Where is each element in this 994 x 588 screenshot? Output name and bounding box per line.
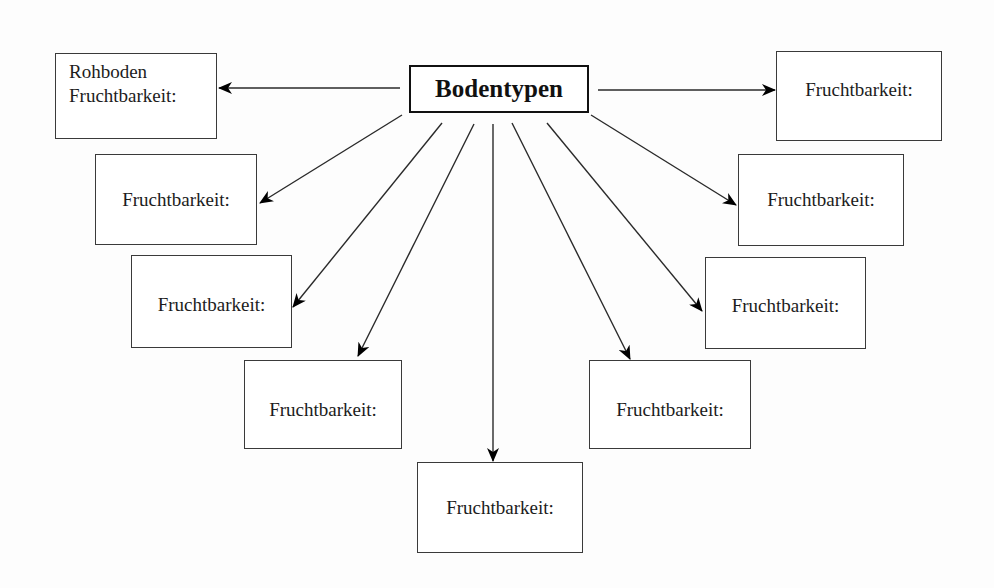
node-right-2: Fruchtbarkeit: xyxy=(738,154,904,246)
node-left-2-label: Fruchtbarkeit: xyxy=(96,188,256,212)
node-top-right: Fruchtbarkeit: xyxy=(776,51,942,141)
node-bottom-center: Fruchtbarkeit: xyxy=(417,462,583,553)
node-top-left-line1: Rohboden xyxy=(69,60,216,84)
node-right-3-label: Fruchtbarkeit: xyxy=(706,294,865,318)
node-right-3: Fruchtbarkeit: xyxy=(705,257,866,349)
node-left-4: Fruchtbarkeit: xyxy=(244,360,402,449)
node-right-2-label: Fruchtbarkeit: xyxy=(739,188,903,212)
center-node-bodentypen: Bodentypen xyxy=(409,65,589,113)
node-left-2: Fruchtbarkeit: xyxy=(95,154,257,245)
arrow-to-right-3 xyxy=(547,123,702,311)
arrow-to-right-2 xyxy=(591,115,736,205)
node-bottom-center-label: Fruchtbarkeit: xyxy=(418,496,582,520)
node-top-left: Rohboden Fruchtbarkeit: xyxy=(55,53,217,139)
arrow-to-left-3 xyxy=(293,123,442,307)
node-right-4-label: Fruchtbarkeit: xyxy=(590,398,750,422)
arrow-to-left-2 xyxy=(260,115,402,203)
diagram-canvas: Bodentypen Rohboden Fruchtbarkeit: Fruch… xyxy=(0,0,994,588)
arrow-to-left-4 xyxy=(358,124,474,356)
node-top-right-label: Fruchtbarkeit: xyxy=(777,78,941,102)
center-node-label: Bodentypen xyxy=(435,75,563,103)
arrow-to-right-4 xyxy=(512,123,630,359)
node-left-3-label: Fruchtbarkeit: xyxy=(132,293,291,317)
node-top-left-line2: Fruchtbarkeit: xyxy=(69,84,216,108)
node-left-3: Fruchtbarkeit: xyxy=(131,255,292,348)
node-left-4-label: Fruchtbarkeit: xyxy=(245,398,401,422)
node-right-4: Fruchtbarkeit: xyxy=(589,360,751,449)
